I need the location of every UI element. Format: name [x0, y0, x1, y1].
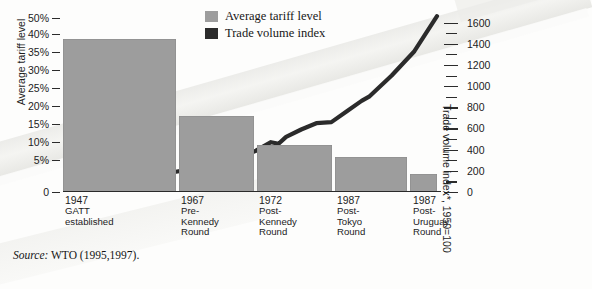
right-axis-tick-label: 1400	[467, 39, 490, 50]
legend-label-average-tariff-level: Average tariff level	[225, 9, 322, 24]
source-text: WTO (1995,1997).	[51, 249, 139, 261]
bar-average-tariff-level	[257, 145, 332, 192]
bar-average-tariff-level	[179, 116, 254, 192]
left-axis-tick-label: 25%	[28, 83, 49, 94]
bar-average-tariff-level	[335, 157, 407, 192]
left-axis-title: Average tariff level	[15, 0, 27, 127]
left-axis-tick-label: 30%	[28, 65, 49, 76]
source-label: Source:	[13, 249, 48, 261]
right-axis-tick-mark	[444, 44, 458, 45]
left-axis: Average tariff level 50%40%35%30%25%20%1…	[0, 0, 63, 266]
category-label: 1972Post- Kennedy Round	[259, 196, 297, 238]
x-axis-baseline	[63, 191, 441, 192]
left-axis-tick-label: 20%	[28, 101, 49, 112]
source-note: Source: WTO (1995,1997).	[13, 249, 139, 261]
right-axis-tick-label: 400	[467, 145, 485, 156]
left-axis-tick-mark	[52, 52, 60, 53]
category-detail: Pre- Kennedy Round	[181, 205, 219, 237]
right-axis-tick-label: 0	[467, 187, 473, 198]
category-detail: Post- Tokyo Round	[337, 205, 365, 237]
right-axis-tick-label: 800	[467, 102, 485, 113]
category-detail: Post- Uruguay Round	[413, 205, 449, 237]
right-axis-tick-label: 1000	[467, 81, 490, 92]
right-axis-tick-mark	[444, 23, 458, 24]
right-axis-minor-tick	[446, 54, 457, 55]
left-axis-tick-mark	[52, 18, 60, 19]
bar-average-tariff-level	[410, 174, 437, 192]
left-axis-tick-label: 10%	[28, 137, 49, 148]
category-label: 1987Post- Tokyo Round	[337, 196, 365, 238]
legend-item-trade-volume-index: Trade volume index	[205, 25, 325, 42]
left-axis-tick-label: 5%	[34, 155, 49, 166]
left-axis-tick-mark	[52, 88, 60, 89]
right-axis-tick-mark	[444, 86, 458, 87]
left-axis-tick-mark	[52, 34, 60, 35]
right-axis: 16001400120010008006004002000 Trade volu…	[441, 0, 518, 266]
right-axis-minor-tick	[446, 76, 457, 77]
right-axis-tick-mark	[444, 65, 458, 66]
category-detail: Post- Kennedy Round	[259, 205, 297, 237]
legend-swatch-icon-trade-volume-index	[205, 28, 218, 39]
legend-label-trade-volume-index: Trade volume index	[225, 26, 325, 41]
left-axis-tick-label: 35%	[28, 47, 49, 58]
left-axis-tick-label: 50%	[28, 13, 49, 24]
right-axis-minor-tick	[446, 97, 457, 98]
bar-average-tariff-level	[63, 39, 176, 192]
category-label: 1987Post- Uruguay Round	[413, 196, 449, 238]
left-axis-tick-mark	[52, 192, 60, 193]
legend-swatch-icon-average-tariff-level	[205, 11, 218, 22]
legend-item-average-tariff-level: Average tariff level	[205, 8, 325, 25]
left-axis-tick-mark	[52, 70, 60, 71]
left-axis-tick-mark	[52, 160, 60, 161]
left-axis-tick-label: 40%	[28, 29, 49, 40]
right-axis-tick-label: 1600	[467, 18, 490, 29]
category-label: 1947GATT established	[65, 196, 114, 227]
left-axis-tick-label: 15%	[28, 119, 49, 130]
category-label: 1967Pre- Kennedy Round	[181, 196, 219, 238]
left-axis-tick-mark	[52, 106, 60, 107]
left-axis-tick-mark	[52, 142, 60, 143]
left-axis-tick-label: 0	[43, 187, 49, 198]
chart-legend: Average tariff level Trade volume index	[205, 8, 325, 42]
left-axis-tick-mark	[52, 124, 60, 125]
right-axis-tick-label: 200	[467, 166, 485, 177]
category-detail: GATT established	[65, 205, 114, 226]
category-labels: 1947GATT established1967Pre- Kennedy Rou…	[63, 196, 441, 256]
right-axis-tick-label: 1200	[467, 60, 490, 71]
right-axis-minor-tick	[446, 33, 457, 34]
right-axis-tick-label: 600	[467, 123, 485, 134]
